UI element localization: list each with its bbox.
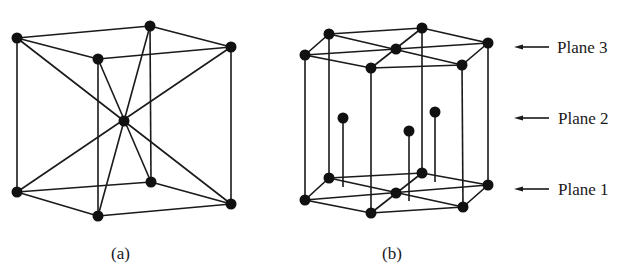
atom-middle: [404, 126, 415, 137]
atom-body-center: [119, 116, 130, 127]
atom-middle: [430, 107, 441, 118]
atom: [324, 173, 335, 184]
plane-3-label: Plane 3: [557, 38, 608, 57]
atom: [483, 180, 494, 191]
atom: [146, 177, 157, 188]
atom-middle: [338, 113, 349, 124]
atom: [457, 60, 468, 71]
atom: [417, 168, 428, 179]
atom: [366, 208, 377, 219]
arrow-left-icon: [514, 116, 523, 121]
atom: [93, 54, 104, 65]
atom: [300, 195, 311, 206]
atom: [12, 33, 23, 44]
plane-arrows: [514, 45, 549, 192]
crystal-structure-figure: Plane 3 Plane 2 Plane 1 (a) (b): [0, 0, 642, 273]
atom-bottom-center: [391, 188, 402, 199]
atom: [366, 63, 377, 74]
caption-b: (b): [382, 244, 402, 263]
atom: [417, 23, 428, 34]
plane-2-label: Plane 2: [558, 109, 609, 128]
atom: [483, 38, 494, 49]
arrow-left-icon: [514, 45, 523, 50]
hcp-unit-cell: [300, 23, 494, 219]
atom: [226, 199, 237, 210]
atom: [93, 211, 104, 222]
plane-1-label: Plane 1: [558, 180, 609, 199]
atom: [300, 50, 311, 61]
atom: [145, 21, 156, 32]
atom: [12, 187, 23, 198]
atom: [458, 202, 469, 213]
atom: [226, 42, 237, 53]
arrow-left-icon: [514, 187, 523, 192]
bcc-unit-cell: [12, 21, 237, 222]
atom: [324, 29, 335, 40]
atom-top-center: [391, 44, 402, 55]
caption-a: (a): [111, 244, 130, 263]
